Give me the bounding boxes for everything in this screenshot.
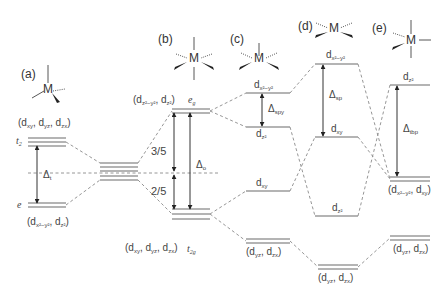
tetrahedral-t2-levels — [28, 138, 66, 146]
tetrahedral-upper-orbitals: (dxy, dyz, dzx) — [18, 118, 71, 129]
tbp-lowest-orbitals: (dyz, dzx) — [393, 244, 428, 255]
panel-label-d: (d) — [298, 20, 313, 32]
spy-level-2-label: dz² — [256, 129, 267, 140]
panel-label-c: (c) — [230, 33, 244, 45]
octahedral-t2g-label: t2g — [187, 244, 196, 255]
octahedral-eg-label: eg — [188, 95, 195, 106]
panel-label-b: (b) — [158, 33, 173, 45]
octahedral-upper-orbitals: (dz²−y², dz²) — [133, 95, 175, 106]
octahedral-lower-orbitals: (dxy, dyz, dzx) — [125, 243, 178, 254]
spy-level-3-label: dxy — [256, 178, 268, 189]
energy-level-diagram — [0, 0, 445, 301]
tetrahedral-lower-orbitals: (dx²−y², dz²) — [27, 217, 69, 228]
spy-level-1-label: dx²−y² — [254, 80, 273, 91]
delta-o-label: Δo — [196, 160, 206, 171]
metal-symbol-d: M — [329, 22, 339, 34]
metal-symbol-a: M — [43, 83, 53, 95]
delta-t-label: Δt — [43, 170, 51, 181]
panel-label-a: (a) — [21, 68, 36, 80]
free-ion-levels — [100, 163, 138, 180]
fraction-upper-label: 3/5 — [151, 146, 166, 157]
tetrahedral-e-label: e — [17, 200, 21, 210]
tbp-top-level-label: dz² — [403, 72, 414, 83]
delta-tbp-label: Δtbp — [403, 124, 418, 135]
sp-lowest-orbitals: (dyz, dzx) — [318, 273, 353, 284]
sp-level-3-label: dz² — [332, 203, 343, 214]
sp-level-2-label: dxy — [331, 124, 343, 135]
metal-symbol-e: M — [406, 34, 416, 46]
trigonal-bipyramidal-levels — [390, 85, 430, 240]
tetrahedral-t2-label: t2 — [16, 136, 22, 147]
octahedral-eg-levels — [172, 109, 210, 113]
tbp-middle-orbitals: (dx²−y², dxy) — [388, 185, 431, 196]
delta-spy-label: Δspy — [268, 104, 284, 115]
delta-sp-label: Δsp — [329, 90, 342, 101]
octahedral-t2g-levels — [172, 209, 210, 219]
square-pyramidal-levels — [246, 93, 290, 243]
metal-symbol-c: M — [254, 52, 264, 64]
tetrahedral-e-levels — [28, 203, 66, 207]
fraction-lower-label: 2/5 — [151, 186, 166, 197]
metal-symbol-b: M — [189, 52, 199, 64]
panel-label-e: (e) — [372, 22, 387, 34]
spy-lowest-orbitals: (dyz, dzx) — [246, 247, 281, 258]
sp-level-1-label: dx²−y² — [326, 50, 345, 61]
